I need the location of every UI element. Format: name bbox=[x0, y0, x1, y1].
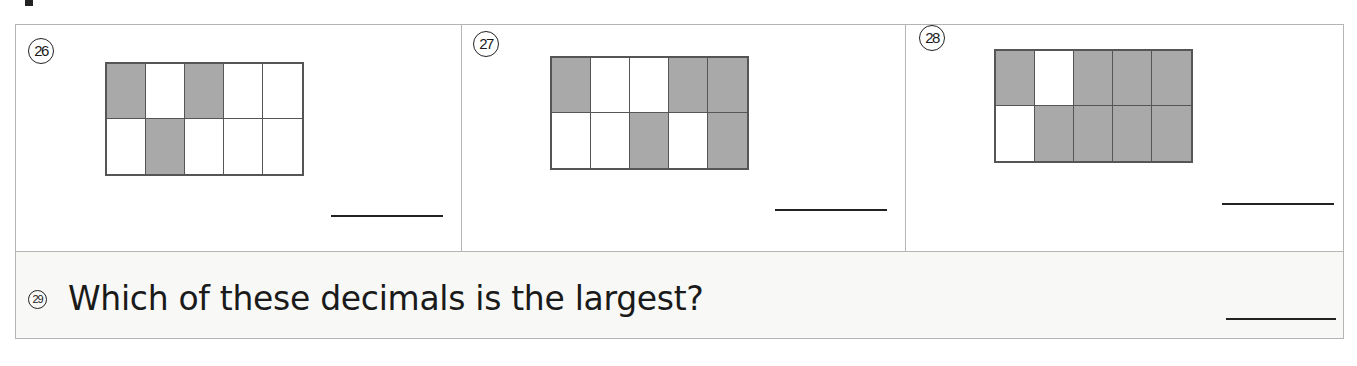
unshaded-cell bbox=[263, 64, 302, 119]
fraction-grid-26 bbox=[105, 62, 304, 176]
unshaded-cell bbox=[185, 119, 224, 174]
unshaded-cell bbox=[669, 113, 708, 168]
shaded-cell bbox=[1113, 106, 1152, 161]
unshaded-cell bbox=[263, 119, 302, 174]
unshaded-cell bbox=[107, 119, 146, 174]
unshaded-cell bbox=[630, 58, 669, 113]
unshaded-cell bbox=[224, 119, 263, 174]
fraction-grid-27 bbox=[550, 56, 749, 170]
answer-line-29[interactable] bbox=[1226, 318, 1336, 320]
unshaded-cell bbox=[591, 113, 630, 168]
shaded-cell bbox=[996, 51, 1035, 106]
answer-line-26[interactable] bbox=[331, 215, 443, 217]
shaded-cell bbox=[107, 64, 146, 119]
fraction-grid-28 bbox=[994, 49, 1193, 163]
unshaded-cell bbox=[996, 106, 1035, 161]
question-29-text: Which of these decimals is the largest? bbox=[68, 279, 704, 318]
shaded-cell bbox=[185, 64, 224, 119]
question-27-panel: 27 bbox=[462, 25, 906, 251]
question-number-26: 26 bbox=[28, 38, 54, 64]
shaded-cell bbox=[146, 119, 185, 174]
shaded-cell bbox=[1074, 51, 1113, 106]
shaded-cell bbox=[552, 58, 591, 113]
question-28-panel: 28 bbox=[906, 25, 1343, 251]
question-26-panel: 26 bbox=[16, 25, 462, 251]
shaded-cell bbox=[1074, 106, 1113, 161]
answer-line-27[interactable] bbox=[775, 209, 887, 211]
shaded-cell bbox=[708, 58, 747, 113]
shaded-cell bbox=[708, 113, 747, 168]
answer-line-28[interactable] bbox=[1222, 203, 1334, 205]
question-number-28: 28 bbox=[919, 25, 945, 51]
shaded-cell bbox=[1152, 51, 1191, 106]
shaded-cell bbox=[1035, 106, 1074, 161]
unshaded-cell bbox=[146, 64, 185, 119]
question-number-27: 27 bbox=[473, 31, 499, 57]
shaded-cell bbox=[1152, 106, 1191, 161]
worksheet-frame: 26 27 28 29 Which of these decimals is t… bbox=[15, 24, 1344, 339]
shaded-cell bbox=[630, 113, 669, 168]
question-number-29: 29 bbox=[28, 290, 47, 309]
unshaded-cell bbox=[1035, 51, 1074, 106]
unshaded-cell bbox=[224, 64, 263, 119]
unshaded-cell bbox=[591, 58, 630, 113]
question-29-row: 29 Which of these decimals is the larges… bbox=[16, 251, 1343, 338]
shaded-cell bbox=[669, 58, 708, 113]
corner-mark bbox=[25, 0, 33, 6]
shaded-cell bbox=[1113, 51, 1152, 106]
unshaded-cell bbox=[552, 113, 591, 168]
